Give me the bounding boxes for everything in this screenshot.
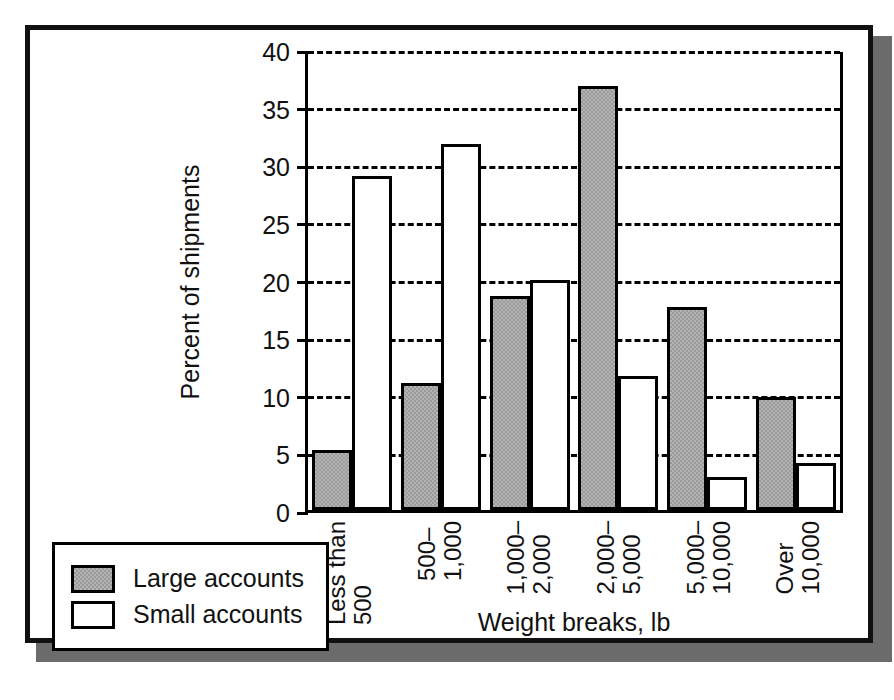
- x-axis-category-label: 1,000– 2,000: [503, 521, 555, 594]
- y-axis-tick: [297, 454, 308, 457]
- x-axis-category-label: 2,000– 5,000: [593, 521, 645, 594]
- bar-group: [751, 52, 840, 510]
- x-axis-category-label: Over 10,000: [772, 521, 824, 594]
- bar-large-accounts[interactable]: [490, 296, 530, 510]
- legend: Large accounts Small accounts: [52, 542, 329, 651]
- bar-group: [663, 52, 752, 510]
- bar-large-accounts[interactable]: [401, 383, 441, 510]
- bar-small-accounts[interactable]: [441, 144, 481, 510]
- y-axis-tick: [297, 166, 308, 169]
- y-axis-tick-label: 15: [262, 326, 290, 355]
- x-axis-title: Weight breaks, lb: [305, 608, 843, 637]
- bar-large-accounts[interactable]: [578, 86, 618, 510]
- bar-group: [397, 52, 486, 510]
- bar-small-accounts[interactable]: [796, 463, 836, 510]
- bar-small-accounts[interactable]: [530, 280, 570, 511]
- y-axis-tick-label: 0: [276, 499, 290, 528]
- bar-group: [574, 52, 663, 510]
- plot-area: 0510152025303540: [305, 52, 843, 513]
- white-swatch-icon: [71, 601, 115, 629]
- y-axis-tick-label: 5: [276, 441, 290, 470]
- legend-item-small-accounts: Small accounts: [71, 600, 304, 629]
- x-axis-category-label: 5,000– 10,000: [683, 521, 735, 594]
- y-axis-tick: [297, 512, 308, 515]
- y-axis-tick-label: 40: [262, 38, 290, 67]
- figure-frame: Percent of shipments 0510152025303540 Le…: [25, 25, 873, 643]
- y-axis-tick: [297, 396, 308, 399]
- bar-large-accounts[interactable]: [667, 307, 707, 510]
- legend-label-small-accounts: Small accounts: [133, 600, 303, 629]
- y-axis-tick: [297, 223, 308, 226]
- y-axis-tick-label: 20: [262, 268, 290, 297]
- y-axis-tick-label: 25: [262, 210, 290, 239]
- gray-dither-swatch-icon: [71, 565, 115, 593]
- y-axis-tick-label: 10: [262, 383, 290, 412]
- bar-group: [308, 52, 397, 510]
- bar-large-accounts[interactable]: [756, 397, 796, 510]
- y-axis-title: Percent of shipments: [176, 165, 205, 400]
- bar-small-accounts[interactable]: [618, 376, 658, 510]
- y-axis-tick: [297, 108, 308, 111]
- figure-root: Percent of shipments 0510152025303540 Le…: [0, 0, 894, 700]
- y-axis-tick-label: 30: [262, 153, 290, 182]
- y-axis-tick: [297, 339, 308, 342]
- bars-group: [308, 52, 840, 510]
- legend-item-large-accounts: Large accounts: [71, 564, 304, 593]
- bar-group: [485, 52, 574, 510]
- bar-small-accounts[interactable]: [707, 477, 747, 510]
- legend-label-large-accounts: Large accounts: [133, 564, 304, 593]
- plot-wrapper: Percent of shipments 0510152025303540 Le…: [30, 30, 868, 638]
- x-axis-category-label: 500– 1,000: [414, 521, 466, 581]
- y-axis-tick: [297, 281, 308, 284]
- bar-small-accounts[interactable]: [352, 176, 392, 510]
- y-axis-tick-label: 35: [262, 95, 290, 124]
- y-axis-tick: [297, 51, 308, 54]
- bar-large-accounts[interactable]: [312, 450, 352, 510]
